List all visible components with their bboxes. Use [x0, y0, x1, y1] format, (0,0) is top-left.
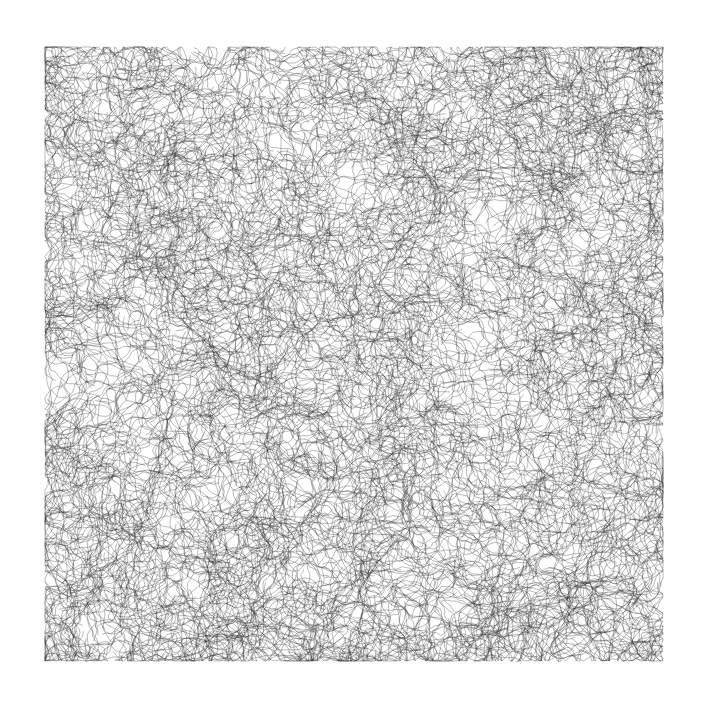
- line-tangle-artwork: [44, 46, 664, 662]
- tangle-strokes: [44, 47, 664, 662]
- canvas: [0, 0, 702, 703]
